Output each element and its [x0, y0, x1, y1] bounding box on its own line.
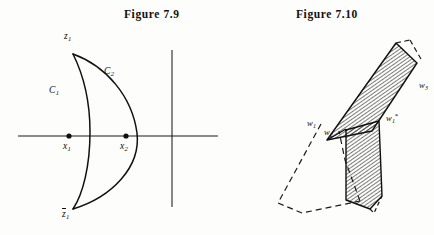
figure-page: Figure 7.9 z1 z1 C1 C2 x1 x2 Fi: [0, 0, 434, 235]
label-w3: w3: [419, 81, 428, 90]
figure-7-9-drawing: [0, 0, 218, 235]
label-x1: x1: [63, 142, 71, 152]
figure-7-9: Figure 7.9 z1 z1 C1 C2 x1 x2: [0, 0, 218, 235]
label-c2: C2: [104, 67, 114, 77]
label-x2: x2: [120, 142, 128, 152]
figure-7-10-drawing: [218, 0, 434, 235]
label-z1-bar: z1: [62, 208, 69, 219]
label-w1: w1: [307, 119, 316, 128]
label-w1-star: w1*: [386, 114, 398, 123]
lower-hatched-band: [346, 121, 382, 209]
point-x2-dot: [123, 133, 128, 138]
point-x1-dot: [66, 133, 71, 138]
label-w2: w2: [324, 128, 333, 137]
label-z1: z1: [64, 32, 71, 42]
label-c1: C1: [49, 86, 59, 96]
figure-7-10: Figure 7.10 w1: [218, 0, 434, 235]
curve-c1: [73, 54, 90, 209]
